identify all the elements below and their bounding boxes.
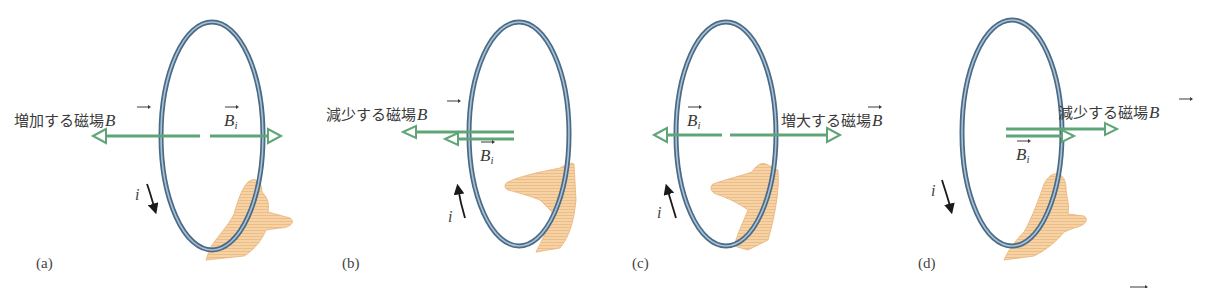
current-label: i bbox=[448, 208, 452, 225]
panel-label-b: (b) bbox=[342, 255, 360, 272]
applied-field-arrow bbox=[730, 128, 840, 142]
applied-field-label: 減少する磁場B bbox=[326, 105, 428, 124]
applied-field-label: 増加する磁場B bbox=[14, 111, 116, 130]
panel-label-a: (a) bbox=[36, 255, 53, 272]
panel-d: 減少する磁場B Bi i (d) bbox=[918, 20, 1193, 272]
applied-field-arrow bbox=[93, 129, 200, 143]
induced-field-label: Bi bbox=[687, 111, 700, 131]
induced-field-label: Bi bbox=[1016, 145, 1029, 165]
current-arrow-up bbox=[458, 188, 465, 218]
induced-field-arrow bbox=[1006, 130, 1074, 142]
induced-field-label: Bi bbox=[224, 111, 237, 131]
panel-label-c: (c) bbox=[632, 255, 649, 272]
current-arrow-up bbox=[667, 188, 676, 218]
current-arrow-down bbox=[147, 184, 155, 210]
panel-a: 増加する磁場B Bi i (a) bbox=[14, 22, 292, 272]
induced-field-arrow bbox=[654, 128, 722, 142]
applied-field-label: 減少する磁場B bbox=[1058, 103, 1160, 122]
current-arrow-down bbox=[942, 180, 951, 210]
current-label: i bbox=[135, 186, 139, 203]
current-label: i bbox=[931, 182, 935, 199]
panel-c: Bi 増大する磁場B i (c) bbox=[632, 22, 883, 272]
induced-field-label: Bi bbox=[480, 146, 493, 166]
panel-label-d: (d) bbox=[918, 255, 936, 272]
induction-figure: 増加する磁場B Bi i (a) 減少する磁場B Bi bbox=[0, 0, 1206, 288]
current-label: i bbox=[657, 204, 661, 221]
applied-field-label: 増大する磁場B bbox=[781, 111, 883, 130]
panel-b: 減少する磁場B Bi i (b) bbox=[326, 22, 576, 272]
induced-field-arrow bbox=[445, 133, 514, 145]
induced-field-arrow bbox=[210, 129, 281, 143]
